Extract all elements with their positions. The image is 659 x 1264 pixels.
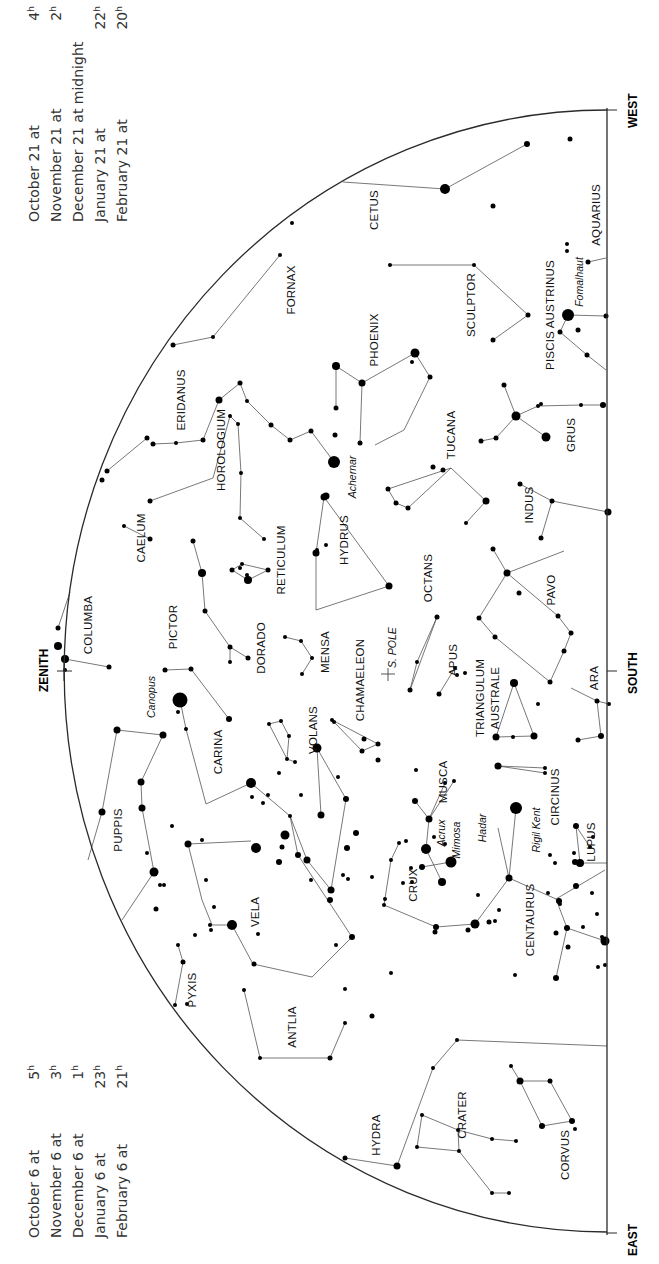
star-dot	[605, 509, 612, 516]
star-dot	[414, 768, 418, 772]
star-dot	[283, 635, 287, 639]
star-dot	[479, 439, 484, 444]
star-dot	[573, 883, 579, 889]
star-dot	[341, 873, 345, 877]
star-dot	[163, 668, 168, 673]
time-table-east: October 6 at5hNovember 6 at3hDecember 6 …	[26, 1065, 130, 1239]
south-pole-label: S. POLE	[386, 626, 398, 668]
star-dot	[216, 397, 223, 404]
star-dot	[476, 893, 480, 897]
time-table-hour: 1h	[70, 1065, 86, 1080]
star-name-labels: FomalhautAchernarCanopusAcruxMimosaHadar…	[145, 256, 585, 858]
star-dot	[539, 1123, 545, 1129]
star-dot	[514, 1139, 518, 1143]
star-dot	[604, 314, 609, 319]
star-dot	[595, 699, 600, 704]
star-dot	[328, 887, 335, 894]
star-dot	[290, 221, 294, 225]
constellation-line	[88, 812, 102, 860]
constellation-line	[336, 366, 362, 383]
star-dot	[411, 349, 420, 358]
constellation-line	[330, 1023, 345, 1058]
star-dot	[506, 875, 513, 882]
constellation-label: HOROLOGIUM	[215, 409, 227, 491]
constellation-line	[240, 473, 241, 518]
star-dot	[293, 760, 297, 764]
star-dot	[240, 562, 244, 566]
constellation-line	[457, 1040, 607, 1046]
constellation-line	[436, 924, 475, 927]
star-dot	[100, 478, 105, 483]
constellation-line	[597, 701, 601, 736]
star-dot	[440, 184, 450, 194]
star-dot	[394, 501, 399, 506]
constellation-label: TRIANGULUM	[474, 659, 486, 737]
constellation-line	[550, 651, 564, 682]
star-dot	[564, 925, 570, 931]
constellation-line	[186, 729, 206, 804]
constellation-line	[417, 1115, 422, 1147]
constellation-label: FORNAX	[285, 265, 297, 314]
star-dot	[566, 945, 571, 950]
constellation-line	[391, 843, 399, 860]
star-dot	[212, 905, 216, 909]
constellation-line	[191, 669, 229, 719]
star-dot	[491, 338, 496, 343]
constellation-line	[334, 722, 362, 751]
time-table-date: January 21 at	[92, 128, 108, 223]
constellation-line	[219, 383, 240, 400]
star-dot	[491, 547, 496, 552]
constellation-line	[240, 383, 247, 401]
star-dot	[370, 1014, 375, 1019]
star-dot	[562, 309, 574, 321]
star-dot	[518, 482, 523, 487]
constellation-label: CARINA	[212, 730, 224, 775]
constellation-label: VELA	[249, 897, 261, 927]
constellation-line	[142, 808, 154, 872]
star-dot	[181, 960, 186, 965]
star-dot	[401, 881, 405, 885]
star-dot	[497, 908, 501, 912]
star-dot	[576, 738, 581, 743]
star-dot	[310, 656, 314, 660]
star-dot	[579, 403, 583, 407]
constellation-line	[408, 468, 451, 508]
star-name-label: Hadar	[476, 813, 488, 842]
constellation-line	[285, 637, 301, 641]
time-table-date: October 6 at	[26, 1150, 42, 1238]
constellation-label: AQUARIUS	[590, 184, 602, 246]
star-dot	[543, 771, 547, 775]
constellation-line	[202, 900, 212, 925]
star-dot	[191, 539, 196, 544]
star-name-label: Mimosa	[450, 821, 462, 858]
star-dot	[517, 591, 522, 596]
star-dot	[585, 353, 590, 358]
constellation-label: LUPUS	[585, 822, 597, 861]
star-dot	[421, 844, 431, 854]
star-dot	[151, 442, 156, 447]
star-dot	[105, 469, 110, 474]
star-dot	[477, 616, 482, 621]
star-dot	[493, 919, 497, 923]
constellation-label: CIRCINUS	[549, 768, 561, 825]
star-dot	[431, 1066, 435, 1070]
star-dot	[332, 362, 340, 370]
star-dot	[358, 441, 363, 446]
star-dot	[236, 422, 240, 426]
constellation-label: PISCIS AUSTRINUS	[544, 260, 556, 370]
constellation-line	[560, 332, 587, 355]
constellation-line	[550, 1081, 572, 1121]
constellation-line	[451, 468, 486, 501]
star-dot	[548, 680, 553, 685]
constellation-line	[317, 748, 321, 815]
star-dot	[420, 1113, 424, 1117]
time-table-hour: 4h	[26, 6, 42, 21]
star-dot	[288, 814, 292, 818]
constellation-line	[433, 1040, 457, 1068]
constellation-line	[587, 355, 606, 370]
time-table-hour: 23h	[92, 1065, 108, 1089]
time-table-west: October 21 at4hNovember 21 at2hDecember …	[26, 6, 130, 223]
star-dot	[360, 749, 365, 754]
star-dot	[162, 883, 166, 887]
star-dot	[595, 912, 599, 916]
